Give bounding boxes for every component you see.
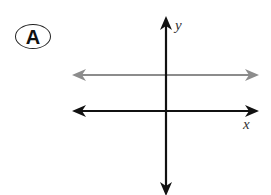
coordinate-graph-figure: A y x [0,0,271,195]
y-axis-label: y [175,18,182,33]
x-axis-label: x [243,117,250,132]
y-axis [160,16,172,195]
graph-canvas [0,0,271,195]
